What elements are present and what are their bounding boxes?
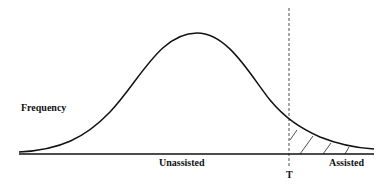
frequency-label: Frequency (21, 102, 66, 113)
bell-curve (19, 33, 374, 152)
assisted-label: Assisted (329, 157, 364, 168)
assisted-hatch (290, 130, 349, 154)
threshold-label: T (286, 169, 293, 180)
unassisted-label: Unassisted (159, 157, 205, 168)
